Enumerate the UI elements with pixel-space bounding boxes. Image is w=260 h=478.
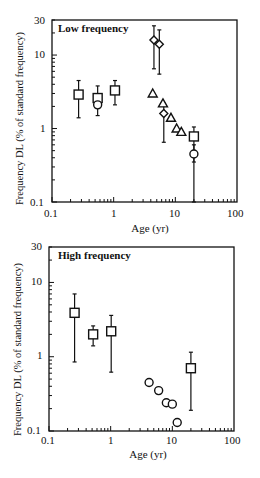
low-frequency-chart: Low frequency Frequency DL (% of standar… [0,0,260,240]
y-tick-0.1: 0.1 [27,424,41,436]
x-tick-0.1: 0.1 [41,434,55,446]
y-tick-0.1: 0.1 [30,196,44,208]
y-tick-10: 10 [31,275,42,287]
x-axis-label: Age (yr) [18,448,260,460]
chart-title: High frequency [58,249,131,261]
y-axis-label: Frequency DL (% of standard frequency) [14,32,25,205]
x-tick-10: 10 [169,207,180,219]
y-axis-label: Frequency DL (% of standard frequency) [12,263,23,436]
chart-title: Low frequency [58,22,128,34]
x-tick-1: 1 [108,434,114,446]
x-tick-0.1: 0.1 [44,207,58,219]
x-tick-1: 1 [111,207,117,219]
y-tick-1: 1 [37,349,43,361]
y-tick-1: 1 [40,122,46,134]
y-tick-30: 30 [34,14,45,26]
x-tick-100: 100 [227,207,244,219]
y-tick-10: 10 [34,48,45,60]
high-frequency-chart: High frequency Frequency DL (% of standa… [0,238,260,478]
x-tick-10: 10 [166,434,177,446]
x-tick-100: 100 [224,434,241,446]
y-tick-30: 30 [31,240,42,252]
x-axis-label: Age (yr) [20,222,260,234]
